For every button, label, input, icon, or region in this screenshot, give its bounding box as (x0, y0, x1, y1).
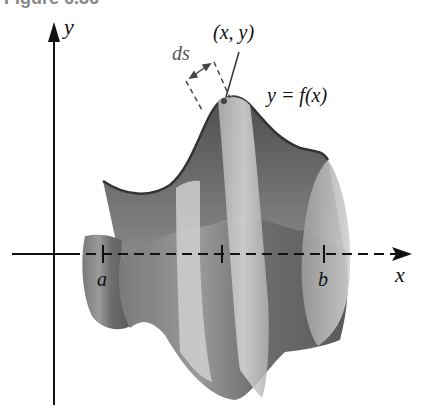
point-label: (x, y) (213, 21, 254, 44)
point-marker (221, 98, 227, 104)
b-label: b (318, 268, 328, 291)
curve-label: y = f(x) (267, 84, 327, 107)
ds-label: ds (172, 42, 190, 65)
surface-of-revolution-figure: y x (x, y) ds y = f(x) a b Figure 6.36 (0, 0, 428, 413)
a-label: a (97, 268, 107, 291)
figure-graphic (0, 0, 428, 413)
figure-caption: Figure 6.36 (4, 0, 99, 9)
x-axis-label: x (395, 262, 405, 288)
y-axis-label: y (64, 14, 74, 40)
point-label-text: (x, y) (213, 21, 254, 43)
